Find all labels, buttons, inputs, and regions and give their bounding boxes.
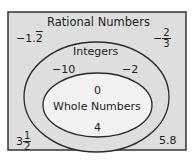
member-zero: 0 — [94, 85, 101, 96]
fraction: 12 — [23, 131, 31, 152]
sign: − — [16, 32, 25, 45]
sign: − — [153, 32, 162, 45]
whole-numbers-label: Whole Numbers — [53, 101, 141, 112]
member-four: 4 — [94, 122, 101, 133]
member-negative-2: −2 — [122, 64, 138, 75]
member-three-and-a-half: 312 — [16, 131, 31, 152]
denominator: 3 — [163, 39, 169, 49]
member-negative-two-thirds: −23 — [153, 28, 171, 49]
fraction: 23 — [162, 28, 170, 49]
member-five-point-eight: 5.8 — [159, 135, 177, 146]
denominator: 2 — [24, 142, 30, 152]
repeating-digit: 2 — [36, 32, 43, 45]
member-negative-1-point-2-repeating: −1.2 — [16, 33, 43, 44]
whole-part: 1. — [25, 32, 36, 45]
whole-part: 3 — [16, 135, 23, 148]
rational-numbers-label: Rational Numbers — [47, 17, 150, 29]
integers-label: Integers — [73, 46, 118, 57]
member-negative-10: −10 — [52, 64, 75, 75]
